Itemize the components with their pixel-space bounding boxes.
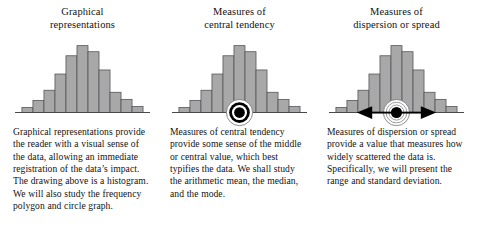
column-2-heading-line-1: Measures of <box>170 6 309 19</box>
histogram-bar <box>88 52 99 113</box>
histogram-bar <box>278 100 289 113</box>
histogram-bar <box>212 74 223 113</box>
column-2-figure <box>170 34 309 120</box>
histogram-bar <box>267 92 278 112</box>
histogram-bar <box>190 101 201 113</box>
column-1-figure <box>13 34 152 120</box>
histogram-bar <box>22 108 33 113</box>
histogram-bar <box>201 90 212 112</box>
column-3-body-text: Measures of dispersion or spread provide… <box>327 126 466 187</box>
histogram-bar <box>289 107 300 113</box>
histogram-bar <box>66 56 77 113</box>
histogram-chart-2 <box>170 34 309 120</box>
figure-page: Graphical representations Graphical repr… <box>0 0 479 252</box>
histogram-bar <box>435 100 446 113</box>
histogram-bar <box>179 108 190 113</box>
column-2-heading-line-2: central tendency <box>170 19 309 32</box>
column-3-heading: Measures of dispersion or spread <box>327 6 466 31</box>
column-graphical-representations: Graphical representations Graphical repr… <box>4 6 161 252</box>
three-column-layout: Graphical representations Graphical repr… <box>0 0 479 252</box>
histogram-bar <box>77 46 88 113</box>
bullseye-center-dot-icon <box>391 107 402 118</box>
bullseye-marker-icon-2 <box>226 100 252 126</box>
histogram-bar <box>369 74 380 113</box>
column-2-body-text: Measures of central tendency provide som… <box>170 126 309 200</box>
histogram-bar <box>44 90 55 112</box>
histogram-bars-1 <box>22 46 143 113</box>
histogram-bar <box>55 74 66 113</box>
histogram-bar <box>336 108 347 113</box>
column-2-heading: Measures of central tendency <box>170 6 309 31</box>
histogram-svg-1 <box>13 34 152 120</box>
histogram-bar <box>347 101 358 113</box>
column-dispersion-or-spread: Measures of dispersion or spread <box>318 6 475 252</box>
histogram-bar <box>99 70 110 113</box>
histogram-bar <box>33 101 44 113</box>
column-3-figure <box>327 34 466 120</box>
histogram-bar <box>110 92 121 112</box>
histogram-bar <box>413 70 424 113</box>
column-1-body-text: Graphical representations provide the re… <box>13 126 152 212</box>
column-1-heading-line-1: Graphical <box>13 6 152 19</box>
histogram-bar <box>446 107 457 113</box>
histogram-chart-1 <box>13 34 152 120</box>
column-1-heading-line-2: representations <box>13 19 152 32</box>
histogram-svg-2 <box>170 34 309 120</box>
histogram-svg-3 <box>327 34 466 120</box>
column-central-tendency: Measures of central tendency <box>161 6 318 252</box>
histogram-bar <box>132 107 143 113</box>
histogram-bar <box>256 70 267 113</box>
column-3-heading-line-2: dispersion or spread <box>327 19 466 32</box>
histogram-bar <box>121 100 132 113</box>
column-1-heading: Graphical representations <box>13 6 152 31</box>
histogram-chart-3 <box>327 34 466 120</box>
column-3-heading-line-1: Measures of <box>327 6 466 19</box>
